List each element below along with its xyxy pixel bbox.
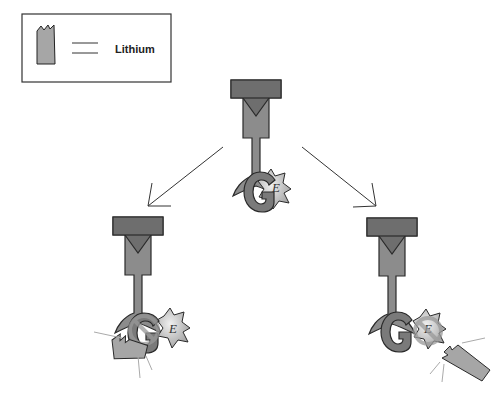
legend-box: Lithium <box>22 14 171 82</box>
panel-bottom-right: E <box>367 218 490 382</box>
panel-top: E <box>231 80 291 212</box>
panel-bottom-left: E <box>94 217 190 378</box>
lithium-icon <box>442 345 490 381</box>
effector-label: E <box>271 180 280 195</box>
effector-label: E <box>168 321 177 336</box>
arrow-left <box>148 147 223 206</box>
g-protein-icon <box>244 172 275 212</box>
lithium-legend-icon <box>37 25 55 64</box>
g-protein-icon <box>381 312 412 352</box>
lithium-mechanism-diagram: Lithium E E E <box>0 0 502 394</box>
legend-label: Lithium <box>115 43 155 55</box>
arrow-right <box>302 147 376 207</box>
